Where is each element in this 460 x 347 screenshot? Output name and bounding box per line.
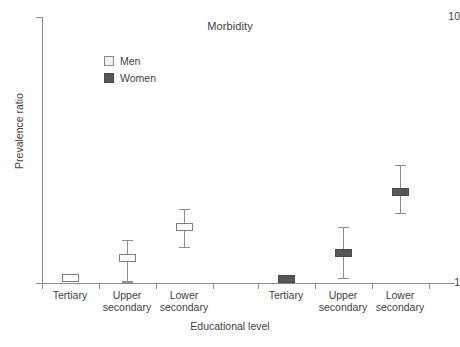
open-square-icon bbox=[104, 56, 114, 66]
y-axis-line bbox=[42, 17, 43, 283]
legend-label-men: Men bbox=[120, 55, 140, 67]
x-category-label-women-lower-secondary: Lower secondary bbox=[363, 289, 437, 313]
error-cap-lower-men-upper-secondary bbox=[122, 281, 133, 284]
legend-item-men[interactable]: Men bbox=[104, 52, 156, 69]
chart-legend: Men Women bbox=[104, 52, 156, 86]
error-cap-lower-women-lower-secondary bbox=[395, 213, 406, 214]
y-axis-tick-label-top: 10 bbox=[434, 11, 460, 21]
data-point-men-upper-secondary[interactable] bbox=[119, 254, 136, 262]
y-axis-tick-10 bbox=[36, 17, 42, 18]
error-cap-lower-women-upper-secondary bbox=[338, 278, 349, 279]
error-cap-upper-men-upper-secondary bbox=[122, 240, 133, 241]
data-point-men-tertiary[interactable] bbox=[62, 274, 79, 282]
x-category-line1: Lower bbox=[147, 289, 221, 301]
error-cap-upper-men-lower-secondary bbox=[179, 209, 190, 210]
chart-title: Morbidity bbox=[0, 20, 460, 32]
x-category-line1: Lower bbox=[363, 289, 437, 301]
filled-square-icon bbox=[104, 73, 114, 83]
data-point-men-lower-secondary[interactable] bbox=[176, 223, 193, 231]
x-category-line2: secondary bbox=[363, 301, 437, 313]
error-cap-upper-women-upper-secondary bbox=[338, 227, 349, 228]
legend-item-women[interactable]: Women bbox=[104, 69, 156, 86]
y-axis-tick-label-bottom: 1 bbox=[434, 277, 460, 287]
data-point-women-upper-secondary[interactable] bbox=[335, 249, 352, 257]
x-axis-title: Educational level bbox=[0, 320, 460, 332]
x-axis-line bbox=[42, 283, 455, 284]
y-axis-title: Prevalence ratio bbox=[13, 76, 25, 186]
error-cap-upper-women-lower-secondary bbox=[395, 165, 406, 166]
x-category-line2: secondary bbox=[147, 301, 221, 313]
error-cap-lower-men-lower-secondary bbox=[179, 247, 190, 248]
legend-label-women: Women bbox=[120, 72, 156, 84]
x-category-label-men-lower-secondary: Lower secondary bbox=[147, 289, 221, 313]
data-point-women-tertiary[interactable] bbox=[278, 275, 295, 283]
data-point-women-lower-secondary[interactable] bbox=[392, 188, 409, 196]
chart-figure: Morbidity 10 1 Prevalence ratio Tertiary… bbox=[0, 0, 460, 347]
